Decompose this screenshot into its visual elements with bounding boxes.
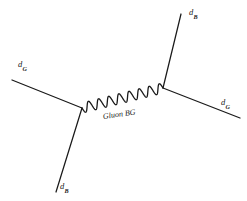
diagram-svg	[0, 0, 247, 201]
particle-symbol: d	[18, 59, 22, 69]
particle-symbol: d	[189, 7, 193, 17]
particle-label-upper-right: dB	[189, 8, 197, 19]
particle-subscript: G	[23, 65, 27, 72]
particle-label-lower-right: dG	[221, 98, 230, 109]
particle-subscript: G	[226, 103, 230, 110]
particle-label-lower-left: dB	[60, 182, 68, 193]
particle-symbol: d	[221, 97, 225, 107]
fermion-line-incoming-upper-left	[12, 80, 82, 108]
fermion-line-outgoing-lower-left	[56, 108, 82, 192]
feynman-diagram-canvas: dG dB dB dG Gluon BG	[0, 0, 247, 201]
particle-label-upper-left: dG	[18, 60, 27, 71]
particle-symbol: d	[60, 181, 64, 191]
fermion-line-outgoing-upper-right	[163, 14, 181, 88]
particle-subscript: B	[194, 13, 198, 20]
gluon-propagator-wave	[82, 84, 163, 112]
particle-subscript: B	[65, 187, 69, 194]
